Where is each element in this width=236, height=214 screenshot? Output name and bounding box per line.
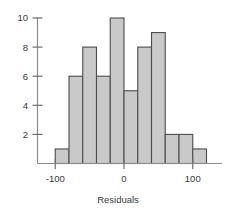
x-tick-label: 0 [121,173,126,184]
histogram-bar [55,149,69,164]
x-tick-label: -100 [46,173,65,184]
histogram-bar [69,76,83,163]
bars-group [55,18,206,164]
y-tick-labels: 246810 [17,12,28,139]
y-tick-label: 2 [23,129,28,140]
y-tick-label: 6 [23,71,28,82]
x-tick-labels: -1000100 [46,173,201,184]
histogram-figure: 246810 -1000100 Residuals [0,0,236,214]
histogram-bar [97,76,111,163]
y-tick-label: 4 [23,100,28,111]
histogram-plot: 246810 -1000100 Residuals [0,0,236,214]
histogram-bar [110,18,124,164]
histogram-bar [179,134,193,163]
histogram-bar [165,134,179,163]
histogram-bar [83,47,97,163]
histogram-bar [152,33,166,164]
y-tick-label: 10 [17,12,28,23]
x-axis-title: Residuals [97,194,139,205]
y-tick-label: 8 [23,42,28,53]
histogram-bar [124,91,138,164]
histogram-bar [138,47,152,163]
histogram-bar [193,149,207,164]
y-axis: 246810 [17,12,42,163]
x-tick-label: 100 [185,173,201,184]
